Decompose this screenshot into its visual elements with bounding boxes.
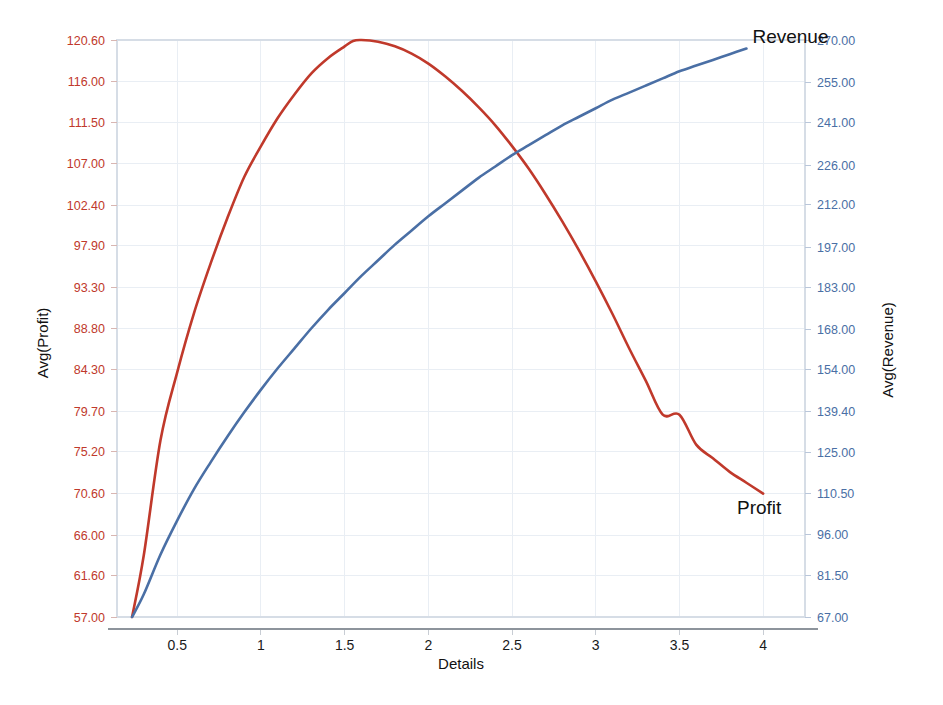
y-axis-left-tick-label: 102.40 [67, 199, 105, 213]
y-axis-right-tick-label: 255.00 [817, 76, 855, 90]
y-axis-left-tick-label: 75.20 [74, 445, 105, 459]
y-axis-left-tick-label: 93.30 [74, 281, 105, 295]
y-axis-right-tick-label: 125.00 [817, 446, 855, 460]
y-axis-right-tick-label: 183.00 [817, 281, 855, 295]
chart-container: 57.0061.6066.0070.6075.2079.7084.3088.80… [0, 0, 943, 705]
x-axis-ticks: 0.511.522.533.54 [168, 629, 768, 653]
y-axis-right-tick-label: 212.00 [817, 198, 855, 212]
x-axis-tick-label: 1 [257, 637, 265, 653]
y-axis-left-tick-label: 70.60 [74, 487, 105, 501]
y-axis-left-tick-label: 57.00 [74, 611, 105, 625]
y-axis-right-tick-label: 67.00 [817, 611, 848, 625]
y-axis-right-ticks: 67.0081.5096.00110.50125.00139.40154.001… [805, 34, 855, 625]
x-axis-tick-label: 0.5 [168, 637, 188, 653]
y-axis-left-tick-label: 84.30 [74, 363, 105, 377]
y-axis-right-tick-label: 110.50 [817, 487, 854, 501]
y-axis-left-tick-label: 116.00 [68, 75, 105, 89]
x-axis-tick-label: 3.5 [670, 637, 690, 653]
y-axis-left-tick-label: 120.60 [67, 34, 105, 48]
y-axis-left-tick-label: 79.70 [74, 405, 105, 419]
y-axis-right-title: Avg(Revenue) [879, 302, 896, 398]
y-axis-left-ticks: 57.0061.6066.0070.6075.2079.7084.3088.80… [67, 34, 117, 625]
y-axis-right-tick-label: 226.00 [817, 159, 855, 173]
y-axis-right-tick-label: 139.40 [817, 405, 855, 419]
y-axis-left-title: Avg(Profit) [34, 308, 51, 379]
y-axis-right-tick-label: 168.00 [817, 323, 855, 337]
y-axis-right-tick-label: 96.00 [817, 528, 848, 542]
y-axis-left-tick-label: 111.50 [69, 116, 105, 130]
y-axis-right-tick-label: 154.00 [817, 363, 855, 377]
x-axis-tick-label: 2.5 [502, 637, 522, 653]
series-label-revenue: Revenue [752, 26, 828, 47]
x-axis-tick-label: 4 [759, 637, 767, 653]
x-axis-title: Details [438, 655, 484, 672]
y-axis-left-tick-label: 66.00 [74, 529, 105, 543]
x-axis-tick-label: 3 [592, 637, 600, 653]
y-axis-left-tick-label: 61.60 [74, 569, 105, 583]
y-axis-right-tick-label: 241.00 [817, 116, 855, 130]
y-axis-right-tick-label: 81.50 [817, 569, 848, 583]
series-label-profit: Profit [737, 497, 782, 518]
x-axis-tick-label: 1.5 [335, 637, 355, 653]
y-axis-left-tick-label: 88.80 [74, 322, 105, 336]
y-axis-right-tick-label: 197.00 [817, 241, 855, 255]
x-axis-tick-label: 2 [424, 637, 432, 653]
line-chart: 57.0061.6066.0070.6075.2079.7084.3088.80… [0, 0, 943, 705]
y-axis-left-tick-label: 107.00 [67, 157, 105, 171]
y-axis-left-tick-label: 97.90 [74, 239, 105, 253]
